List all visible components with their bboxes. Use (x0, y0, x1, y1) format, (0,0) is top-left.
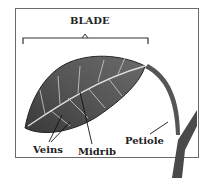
leaf-blade-shape (25, 56, 145, 132)
midrib-label: Midrib (78, 146, 116, 157)
blade-label: BLADE (70, 15, 110, 26)
petiole-shape (145, 64, 180, 135)
blade-bracket (23, 38, 148, 44)
veins-label: Veins (33, 144, 63, 155)
petiole-label: Petiole (125, 135, 164, 146)
